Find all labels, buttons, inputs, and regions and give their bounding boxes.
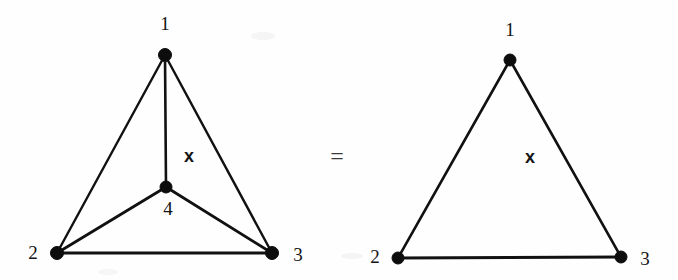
right-graph-vertices	[392, 54, 627, 264]
vertex-label-2: 2	[28, 242, 38, 263]
vertex-3	[266, 247, 279, 260]
vertex-label-2: 2	[370, 246, 380, 267]
left-graph-panel: 1 2 3 4 x	[28, 13, 303, 265]
vertex-label-4: 4	[163, 198, 173, 219]
edge-1-4	[165, 55, 166, 187]
right-graph-panel: 1 2 3 x	[370, 19, 650, 269]
edge-1-3	[165, 55, 272, 253]
vertex-label-1: 1	[505, 19, 515, 40]
vertex-4	[160, 181, 172, 193]
scan-smudge-bottomcenter	[341, 253, 363, 259]
left-face-label-x: x	[184, 146, 194, 166]
edge-2-4	[57, 187, 166, 253]
vertex-3	[615, 251, 627, 263]
scan-smudge-topright	[251, 32, 275, 40]
graph-figure-canvas: 1 2 3 4 x = 1 2 3	[0, 0, 678, 280]
vertex-label-3: 3	[640, 248, 650, 269]
vertex-2	[51, 247, 64, 260]
scan-smudge-bottomleft	[98, 269, 118, 275]
equals-sign: =	[330, 143, 344, 169]
right-graph-edges	[398, 60, 621, 258]
vertex-label-3: 3	[293, 244, 303, 265]
right-face-label-x: x	[525, 147, 535, 167]
vertex-2	[392, 252, 404, 264]
edge-2-3	[398, 257, 621, 258]
vertex-label-1: 1	[160, 13, 170, 34]
figure-container: 1 2 3 4 x = 1 2 3	[0, 0, 678, 280]
edge-1-2	[57, 55, 165, 253]
scan-artifacts	[98, 32, 363, 275]
left-graph-edges	[57, 55, 272, 253]
edge-1-2	[398, 60, 510, 258]
vertex-1	[504, 54, 516, 66]
vertex-1	[159, 49, 172, 62]
edge-3-4	[166, 187, 272, 253]
